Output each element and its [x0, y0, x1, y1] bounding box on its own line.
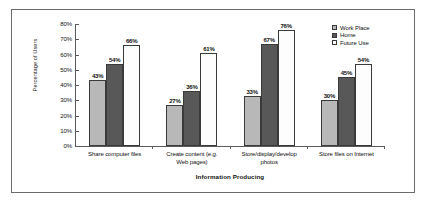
bar-column: 76%: [278, 24, 295, 146]
legend-swatch-icon: [332, 40, 337, 45]
legend-swatch-icon: [332, 33, 337, 38]
y-axis-tick-label: 80%: [60, 21, 76, 27]
bar-column: 66%: [123, 24, 140, 146]
bar-value-label: 45%: [341, 70, 352, 76]
legend-item[interactable]: Work Place: [332, 24, 370, 32]
bar-column: 67%: [261, 24, 278, 146]
bar[interactable]: [89, 80, 106, 146]
bar-value-label: 54%: [358, 57, 369, 63]
bar-value-label: 27%: [169, 98, 180, 104]
legend-item-label: Home: [340, 32, 356, 38]
x-axis-category-label: Share computer files: [70, 151, 159, 159]
x-axis-tick-mark: [384, 146, 385, 149]
bar[interactable]: [278, 30, 295, 146]
bar-column: 61%: [200, 24, 217, 146]
bar-group-bars: 43%54%66%: [76, 24, 153, 146]
y-axis-tick-label: 60%: [60, 52, 76, 58]
y-axis-tick-label: 50%: [60, 67, 76, 73]
legend-item[interactable]: Future Use: [332, 39, 370, 47]
legend-item-label: Work Place: [340, 25, 370, 31]
x-axis-category-label-line: Share computer files: [70, 151, 159, 159]
x-axis-tick-mark: [307, 146, 308, 149]
bar[interactable]: [166, 105, 183, 146]
bar-group: 33%67%76%: [231, 24, 308, 146]
bar-value-label: 33%: [246, 89, 257, 95]
bar-group-bars: 27%36%61%: [153, 24, 230, 146]
x-axis-category-label-line: Store/display/develop: [225, 151, 314, 159]
bar[interactable]: [338, 77, 355, 146]
bar[interactable]: [123, 45, 140, 146]
y-axis-tick-label: 30%: [60, 97, 76, 103]
bar-column: 43%: [89, 24, 106, 146]
x-axis-category-label-line: Web pages): [147, 159, 236, 167]
y-axis-tick-label: 10%: [60, 128, 76, 134]
x-axis-title: Information Producing: [75, 173, 385, 180]
bar-value-label: 43%: [92, 73, 103, 79]
chart-legend: Work PlaceHomeFuture Use: [330, 23, 372, 48]
x-axis-category-label-line: Store files on Internet: [302, 151, 391, 159]
bar-value-label: 54%: [109, 57, 120, 63]
bar-column: 54%: [106, 24, 123, 146]
bar[interactable]: [321, 100, 338, 146]
y-axis-tick-label: 40%: [60, 82, 76, 88]
bar-value-label: 66%: [126, 38, 137, 44]
bar[interactable]: [355, 64, 372, 146]
bar-column: 36%: [183, 24, 200, 146]
bar-value-label: 30%: [324, 93, 335, 99]
y-axis-title: Percentage of Users: [32, 10, 38, 120]
bar-group: 43%54%66%: [76, 24, 153, 146]
legend-swatch-icon: [332, 25, 337, 30]
x-axis-category-label: Store/display/developphotos: [225, 151, 314, 166]
bar[interactable]: [244, 96, 261, 146]
y-axis-tick-label: 70%: [60, 36, 76, 42]
x-axis-tick-mark: [152, 146, 153, 149]
bar-group-bars: 33%67%76%: [231, 24, 308, 146]
legend-item[interactable]: Home: [332, 32, 370, 40]
bar[interactable]: [200, 53, 217, 146]
bar-value-label: 76%: [280, 23, 291, 29]
y-axis-tick-label: 20%: [60, 113, 76, 119]
bar-value-label: 36%: [186, 84, 197, 90]
x-axis-category-label: Store files on Internet: [302, 151, 391, 159]
bar-group: 27%36%61%: [153, 24, 230, 146]
bar[interactable]: [261, 44, 278, 146]
legend-item-label: Future Use: [340, 40, 369, 46]
x-axis-tick-mark: [230, 146, 231, 149]
x-axis-category-label: Create content (e.g.Web pages): [147, 151, 236, 166]
bar[interactable]: [106, 64, 123, 146]
bar[interactable]: [183, 91, 200, 146]
y-axis-tick-mark: [76, 146, 79, 147]
bar-column: 33%: [244, 24, 261, 146]
y-axis-tick-label: 0%: [64, 143, 76, 149]
chart-frame: Percentage of Users 80%70%60%50%40%30%20…: [11, 9, 415, 193]
x-axis-category-label-line: Create content (e.g.: [147, 151, 236, 159]
bar-value-label: 67%: [263, 37, 274, 43]
bar-column: 27%: [166, 24, 183, 146]
bar-value-label: 61%: [203, 46, 214, 52]
x-axis-category-label-line: photos: [225, 159, 314, 167]
